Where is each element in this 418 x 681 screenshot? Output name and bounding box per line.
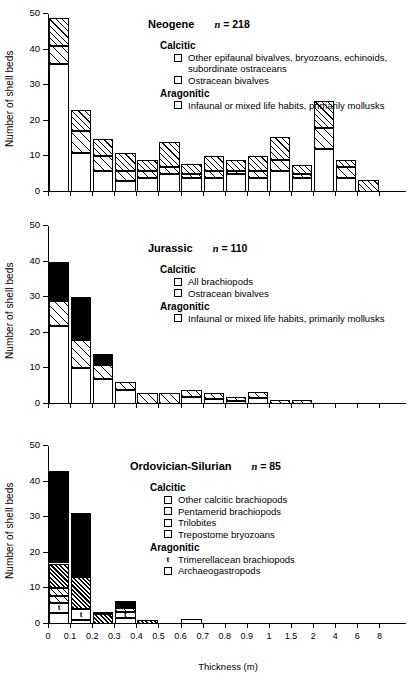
legend-group-calcitic: All brachiopodsOstracean bivalves <box>160 276 418 299</box>
x-tick <box>291 624 292 628</box>
bar <box>49 262 69 404</box>
bar-segment <box>270 160 290 171</box>
y-tick: 20 <box>43 552 48 553</box>
bar <box>115 382 135 404</box>
legend-label: Pentamerid brachiopods <box>178 506 281 517</box>
sample-size-jurassic: n = 110 <box>213 242 248 254</box>
y-tick-label: 30 <box>29 78 40 89</box>
legend-swatch-icon <box>164 507 172 515</box>
y-tick: 20 <box>43 332 48 333</box>
x-tick-label: 0.3 <box>108 631 121 641</box>
x-tick <box>203 404 204 408</box>
bar-segment <box>226 171 246 175</box>
y-tick-label: 20 <box>29 114 40 125</box>
x-tick <box>225 404 226 408</box>
bar-segment <box>93 379 113 404</box>
bar-segment <box>49 596 69 603</box>
x-tick <box>247 624 248 628</box>
legend-label: Infaunal or mixed life habits, primarily… <box>188 313 384 324</box>
bar-segment <box>71 368 91 404</box>
x-tick <box>357 624 358 628</box>
legend-group-aragonitic: Infaunal or mixed life habits, primarily… <box>160 100 410 111</box>
bar-segment <box>49 64 69 192</box>
legend-heading-calcitic: Calcitic <box>160 264 418 275</box>
legend-item: Archaeogastropods <box>164 565 410 576</box>
bar-segment <box>358 180 378 192</box>
bar-segment <box>49 326 69 404</box>
x-tick <box>379 404 380 408</box>
bar-segment <box>292 174 312 178</box>
bar-segment <box>226 401 246 404</box>
bar-segment <box>270 400 290 404</box>
bar-segment <box>115 601 135 605</box>
bar <box>204 393 224 404</box>
x-tick <box>269 192 270 196</box>
x-tick <box>158 192 159 196</box>
x-tick <box>225 624 226 628</box>
bar-segment <box>71 513 91 577</box>
legend-group-aragonitic: Infaunal or mixed life habits, primarily… <box>160 313 418 324</box>
x-tick <box>313 404 314 408</box>
bar-segment <box>226 160 246 171</box>
bar-segment: t <box>71 609 91 620</box>
bar-segment <box>204 178 224 192</box>
y-tick-label: 10 <box>29 361 40 372</box>
y-tick-label: 10 <box>29 581 40 592</box>
y-tick-label: 30 <box>29 290 40 301</box>
bar-segment <box>49 471 69 564</box>
bar-segment <box>181 397 201 404</box>
legend-heading-calcitic: Calcitic <box>150 482 410 493</box>
x-tick <box>203 192 204 196</box>
legend-swatch-icon <box>174 54 182 62</box>
x-tick <box>48 624 49 628</box>
legend-item: Trilobites <box>164 517 410 528</box>
bar-segment <box>336 167 356 178</box>
legend-item: Trepostome bryozoans <box>164 529 410 540</box>
y-tick-label: 20 <box>29 326 40 337</box>
bar-segment <box>248 178 268 192</box>
bar <box>49 18 69 192</box>
y-tick-label: 0 <box>35 185 40 196</box>
bar <box>181 619 201 624</box>
legend-item: Infaunal or mixed life habits, primarily… <box>174 100 410 111</box>
x-tick-label: 8 <box>377 631 382 641</box>
bar-segment <box>137 171 157 178</box>
x-tick-label: 0.1 <box>64 631 77 641</box>
x-tick <box>92 404 93 408</box>
bar-segment <box>270 137 290 160</box>
legend-swatch-icon <box>164 567 172 575</box>
bar-segment <box>137 393 157 404</box>
legend-item: tTrimerellacean brachiopods <box>164 554 410 565</box>
x-tick-label: 0.4 <box>130 631 143 641</box>
legend-heading-aragonitic: Aragonitic <box>160 301 418 312</box>
bar <box>248 392 268 404</box>
bar-segment <box>226 174 246 192</box>
x-tick <box>114 624 115 628</box>
trimerellacean-marker: t <box>116 611 134 619</box>
y-axis-label: Number of shell beds <box>2 438 16 623</box>
bar-segment <box>159 167 179 174</box>
legend-swatch-icon <box>174 314 182 322</box>
y-tick-label: 50 <box>29 7 40 18</box>
y-tick: 10 <box>43 587 48 588</box>
x-tick <box>181 624 182 628</box>
bar-segment <box>159 142 179 167</box>
bar-segment <box>71 110 91 131</box>
x-tick <box>181 404 182 408</box>
bar-segment <box>137 160 157 171</box>
bar-segment <box>292 165 312 174</box>
bar-segment <box>115 181 135 192</box>
x-tick <box>357 404 358 408</box>
x-tick <box>70 404 71 408</box>
x-tick-label: 0.7 <box>196 631 209 641</box>
bar-segment <box>115 606 135 609</box>
x-tick <box>114 192 115 196</box>
y-tick-label: 0 <box>35 397 40 408</box>
bar-segment <box>93 612 113 614</box>
bar-segment <box>204 156 224 170</box>
legend-label: Trepostome bryozoans <box>178 529 275 540</box>
bar <box>270 400 290 404</box>
y-tick: 40 <box>43 49 48 50</box>
bar <box>159 393 179 404</box>
y-tick: 30 <box>43 296 48 297</box>
